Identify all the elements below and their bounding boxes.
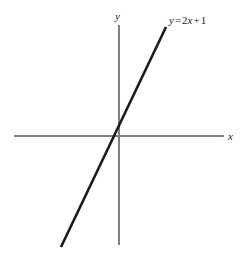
equation-variable: x (188, 14, 193, 26)
plot-canvas (0, 0, 243, 256)
equation-equals-sign: = (174, 14, 182, 26)
plotted-line (61, 27, 166, 247)
line-graph-figure: y x y=2x+1 (0, 0, 243, 256)
equation-constant: 1 (201, 14, 207, 26)
x-axis-label: x (228, 131, 233, 142)
y-axis-label: y (115, 11, 120, 22)
equation-plus-sign: + (193, 14, 201, 26)
equation-annotation: y=2x+1 (169, 15, 206, 26)
